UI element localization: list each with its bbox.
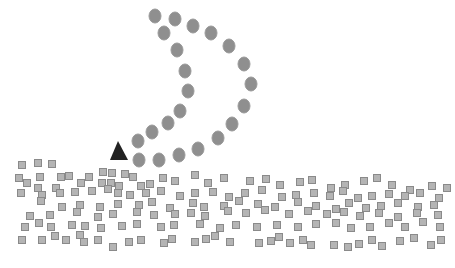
square-marker [143,190,150,197]
square-marker [77,232,84,239]
square-marker [151,212,158,219]
square-marker [378,203,385,210]
square-marker [295,199,302,206]
square-marker [190,200,197,207]
square-marker [86,174,93,181]
square-marker [308,242,315,249]
square-marker [437,224,444,231]
square-marker [126,239,133,246]
square-marker [276,234,283,241]
triangle-marker [110,141,128,160]
square-marker [127,192,134,199]
square-marker [287,240,294,247]
square-marker [333,206,340,213]
square-marker [243,210,250,217]
square-marker [78,180,85,187]
square-marker [225,208,232,215]
square-marker [357,213,364,220]
circle-marker [173,148,185,162]
circle-marker [212,131,224,145]
square-marker [57,190,64,197]
square-marker [160,175,167,182]
square-marker [24,180,31,187]
square-marker [386,191,393,198]
square-marker [436,195,443,202]
square-marker [172,178,179,185]
square-marker [247,178,254,185]
square-marker [122,171,129,178]
square-marker [161,240,168,247]
square-marker [115,201,122,208]
square-marker [300,237,307,244]
square-marker [18,190,25,197]
square-marker [58,174,65,181]
circle-marker [146,125,158,139]
square-marker [259,187,266,194]
square-marker [35,185,42,192]
square-marker [177,193,184,200]
square-marker [227,239,234,246]
square-marker [134,221,141,228]
square-marker [361,178,368,185]
square-marker [297,179,304,186]
circle-marker [245,77,257,91]
circle-marker [171,43,183,57]
square-marker [346,200,353,207]
square-marker [369,193,376,200]
square-marker [295,224,302,231]
square-marker [69,222,76,229]
square-marker [435,212,442,219]
square-marker [171,222,178,229]
square-marker [311,190,318,197]
square-marker [197,221,204,228]
square-marker [376,210,383,217]
square-marker [363,205,370,212]
square-marker [386,220,393,227]
square-marker [202,213,209,220]
square-marker [98,225,105,232]
square-marker [395,200,402,207]
square-marker [95,237,102,244]
square-marker [411,235,418,242]
square-marker [374,175,381,182]
square-marker [119,223,126,230]
square-marker [138,237,145,244]
square-marker [19,162,26,169]
square-marker [438,237,445,244]
square-marker [81,239,88,246]
square-marker [397,238,404,245]
square-marker [169,236,176,243]
square-marker [221,175,228,182]
square-marker [36,220,43,227]
square-marker [367,224,374,231]
circle-marker [149,9,161,23]
square-marker [138,183,145,190]
square-marker [210,189,217,196]
square-marker [19,237,26,244]
square-marker [116,183,123,190]
square-marker [130,174,137,181]
square-marker [22,224,29,231]
square-marker [95,214,102,221]
square-marker [324,211,331,218]
square-marker [105,186,112,193]
square-marker [212,233,219,240]
circle-marker [226,117,238,131]
square-marker [35,160,42,167]
square-marker [327,193,334,200]
circle-marker [223,39,235,53]
square-marker [389,182,396,189]
circle-marker [158,26,170,40]
square-marker [205,180,212,187]
square-marker [66,173,73,180]
square-marker [158,188,165,195]
square-marker [341,209,348,216]
square-marker [305,208,312,215]
square-marker [345,244,352,251]
square-marker [255,201,262,208]
square-marker [402,193,409,200]
square-marker [217,225,224,232]
circle-marker [153,153,165,167]
square-marker [233,222,240,229]
square-marker [39,237,46,244]
